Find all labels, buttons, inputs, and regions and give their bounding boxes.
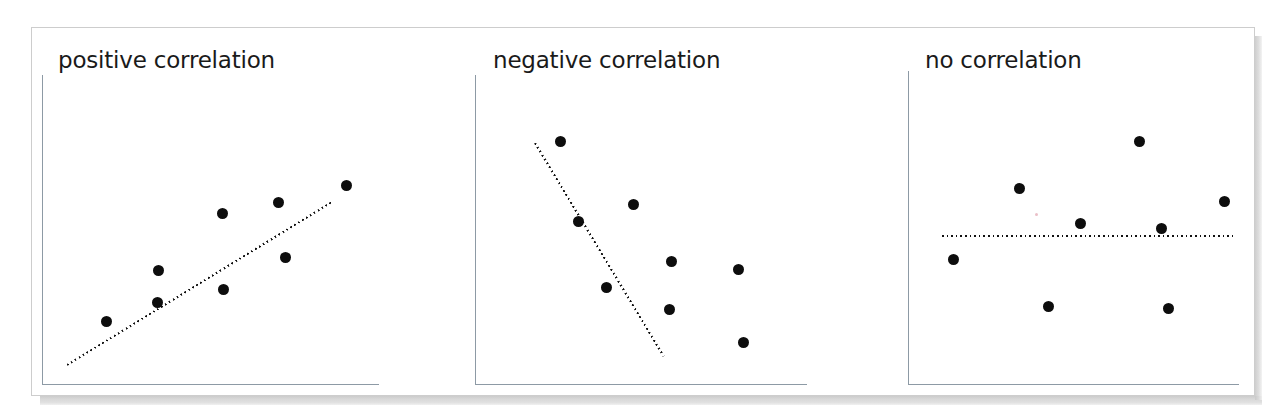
data-point: [1134, 136, 1145, 147]
data-point: [573, 216, 584, 227]
data-point: [217, 208, 228, 219]
data-point: [1043, 301, 1054, 312]
data-point: [273, 197, 284, 208]
data-point: [1219, 196, 1230, 207]
data-point: [341, 180, 352, 191]
data-point: [1163, 303, 1174, 314]
panel-positive-correlation: positive correlation: [0, 27, 430, 396]
data-point: [1075, 218, 1086, 229]
y-axis-line-negative: [475, 75, 476, 384]
plot-area-none: [870, 27, 1272, 396]
y-axis-line-none: [908, 71, 909, 384]
data-point: [738, 337, 749, 348]
panel-no-correlation: no correlation: [870, 27, 1272, 396]
data-point: [153, 265, 164, 276]
data-point: [1156, 223, 1167, 234]
trendline-none: [942, 235, 1235, 237]
data-point: [601, 282, 612, 293]
trendline-negative: [534, 142, 664, 356]
plot-area-positive: [0, 27, 430, 396]
data-point: [152, 297, 163, 308]
data-point: [1014, 183, 1025, 194]
x-axis-line-none: [908, 384, 1239, 385]
data-point: [555, 136, 566, 147]
data-point: [666, 256, 677, 267]
data-point: [280, 252, 291, 263]
data-point: [733, 264, 744, 275]
figure-canvas: positive correlation negative correlatio…: [0, 0, 1272, 419]
y-axis-line-positive: [42, 75, 43, 384]
trendline-positive: [66, 201, 333, 366]
scan-artifact-speck: [1035, 213, 1038, 216]
plot-area-negative: [430, 27, 870, 396]
data-point: [664, 304, 675, 315]
data-point: [948, 254, 959, 265]
data-point: [628, 199, 639, 210]
card-shadow-bottom: [40, 396, 1262, 405]
data-point: [101, 316, 112, 327]
data-point: [218, 284, 229, 295]
x-axis-line-positive: [42, 384, 379, 385]
x-axis-line-negative: [475, 384, 807, 385]
panel-negative-correlation: negative correlation: [430, 27, 870, 396]
